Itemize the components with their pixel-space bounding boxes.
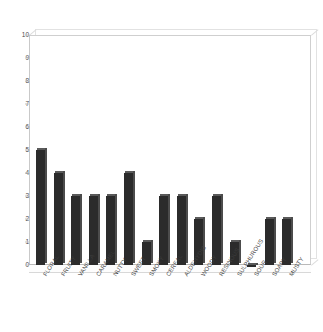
x-tick-label: FRUITY [60,255,77,277]
x-tick-label: SOUR [253,259,268,277]
x-tick-label: WOODY [200,254,218,277]
x-tick-label: MUSTY [288,256,305,277]
x-tick-label: FLORAL [42,254,60,277]
bar-chart: 012345678910 FLORALFRUITYVANILLACARAMELN… [0,0,323,332]
x-tick-label: CEREAL [165,253,183,277]
x-tick-label: NUTTY [112,257,128,277]
x-tick-label: SMOKY [148,255,165,277]
x-tick-label: SWEET [130,256,147,278]
x-axis: FLORALFRUITYVANILLACARAMELNUTTYSWEETSMOK… [0,0,323,332]
x-tick-label: SOAPY [271,256,288,277]
x-tick-label: VANILLA [77,253,96,277]
